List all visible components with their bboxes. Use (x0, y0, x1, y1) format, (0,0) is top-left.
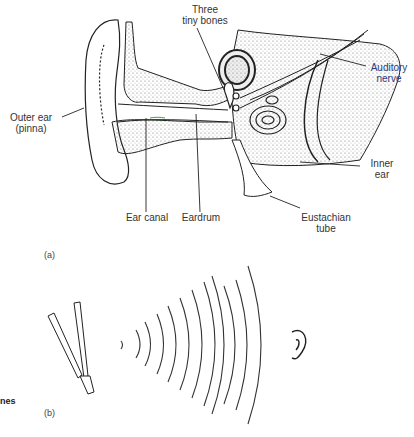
label-line: Auditory (366, 62, 412, 73)
ear-small (292, 331, 306, 359)
semicircular-canals (219, 50, 255, 90)
label-line: ear (364, 169, 400, 180)
label-line: Inner (364, 158, 400, 169)
label-eardrum: Eardrum (178, 212, 224, 223)
label-line: Eustachian (296, 212, 356, 223)
tuning-fork (48, 302, 94, 394)
caption-panel-b: (b) (44, 408, 55, 418)
label-inner-ear: Inner ear (364, 158, 400, 180)
label-line: tube (296, 223, 356, 234)
label-line: tiny bones (180, 15, 230, 26)
label-line: Outer ear (4, 112, 58, 123)
skull-bone-region (112, 22, 232, 154)
label-ear-canal: Ear canal (118, 212, 176, 223)
caption-panel-a: (a) (44, 250, 55, 260)
label-auditory-nerve: Auditory nerve (366, 62, 412, 84)
label-line: Three (180, 4, 230, 15)
label-outer-ear: Outer ear (pinna) (4, 112, 58, 134)
outer-ear-pinna (85, 20, 128, 184)
edge-text-fragment: nes (0, 396, 16, 406)
label-eustachian-tube: Eustachian tube (296, 212, 356, 234)
label-line: nerve (366, 73, 412, 84)
label-line: (pinna) (4, 123, 58, 134)
sound-waves (121, 266, 261, 424)
inner-ear-region (231, 30, 400, 166)
label-three-tiny-bones: Three tiny bones (180, 4, 230, 26)
